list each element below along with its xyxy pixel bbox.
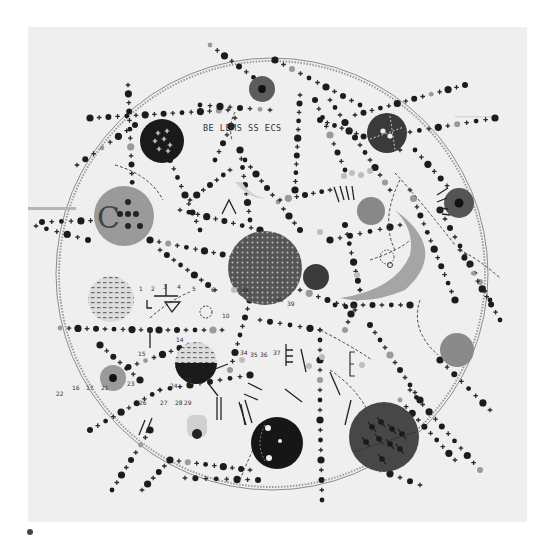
svg-text:3: 3 [163,283,167,290]
svg-text:10: 10 [222,312,230,319]
small-dark-planet-center [303,264,329,290]
bottom-black-disc [251,417,303,469]
left-striped-disc [88,276,134,322]
svg-text:4: 4 [177,283,181,290]
svg-text:2: 2 [151,285,155,292]
right-dark-star-disc [444,188,474,218]
top-right-dark-disc [367,113,407,153]
svg-text:25: 25 [185,376,193,383]
svg-text:15: 15 [138,350,146,357]
mid-right-grey-disc [357,197,385,225]
svg-text:40: 40 [276,296,284,303]
svg-text:22: 22 [56,390,64,397]
half-black-disc [175,342,217,384]
svg-text:24: 24 [170,382,178,389]
svg-text:1: 1 [139,285,143,292]
cosmic-painting: C BE LEMS SS ECS 12345610141516172122232… [0,0,558,554]
top-left-black-disc [140,119,184,163]
svg-text:29: 29 [184,399,192,406]
left-large-grey-disc: C [94,186,154,246]
svg-text:14: 14 [176,336,184,343]
svg-text:27: 27 [160,399,168,406]
svg-text:26: 26 [139,399,147,406]
svg-text:C: C [97,200,120,235]
central-sphere [228,231,302,305]
svg-text:21: 21 [101,384,109,391]
top-red-disc [249,76,275,102]
svg-text:36: 36 [260,351,268,358]
inscription: BE LEMS SS ECS [203,123,282,133]
signature-dot [27,529,33,535]
right-grey-disc [440,333,474,367]
svg-text:39: 39 [287,300,295,307]
svg-text:17: 17 [86,384,94,391]
svg-text:16: 16 [72,384,80,391]
left-streak [28,207,76,210]
svg-text:28: 28 [175,399,183,406]
svg-text:38: 38 [241,286,249,293]
svg-text:34: 34 [240,349,248,356]
svg-text:23: 23 [127,380,135,387]
svg-text:35: 35 [250,351,258,358]
bottom-right-big-disc [349,402,419,472]
svg-text:37: 37 [273,349,281,356]
svg-text:6: 6 [211,286,215,293]
svg-text:5: 5 [192,285,196,292]
